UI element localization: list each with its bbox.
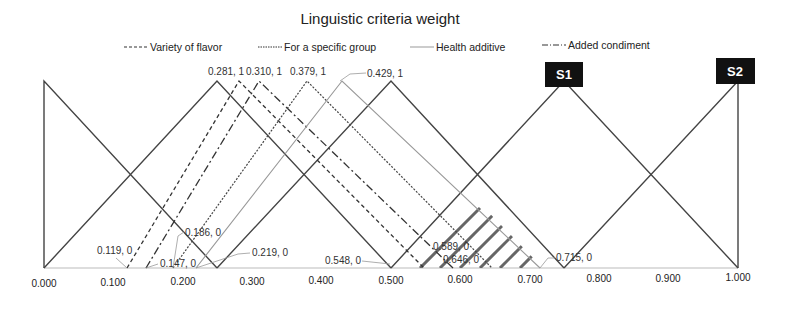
- badge-s1-label: S1: [556, 67, 572, 82]
- low-label: 0.119, 0: [97, 245, 133, 256]
- low-label: 0.219, 0: [252, 247, 289, 258]
- legend-item-variety-of-flavor: Variety of flavor: [124, 41, 223, 53]
- high-label: 0.646, 0: [443, 254, 480, 265]
- high-label: 0.548, 0: [325, 255, 362, 266]
- badge-s2-label: S2: [727, 64, 743, 79]
- badge-s1: S1: [545, 62, 583, 87]
- badge-s2: S2: [716, 58, 755, 84]
- x-tick: 0.300: [239, 276, 264, 287]
- peak-label: 0.281, 1: [208, 66, 245, 77]
- high-label: 0.589, 0: [433, 241, 470, 252]
- low-label: 0.147, 0: [160, 258, 197, 269]
- s1-triangle: [391, 81, 738, 268]
- legend-label: For a specific group: [284, 41, 376, 53]
- peak-label: 0.429, 1: [367, 68, 404, 79]
- high-label: 0.715, 0: [556, 252, 593, 263]
- variety-of-flavor-triangle: [127, 81, 424, 268]
- x-tick: 0.400: [308, 275, 333, 286]
- legend-item-added-condiment: Added condiment: [542, 39, 650, 51]
- added-condiment-triangle: [146, 81, 453, 268]
- legend-label: Variety of flavor: [150, 41, 223, 53]
- x-tick: 0.000: [31, 278, 56, 289]
- legend: Variety of flavor For a specific group H…: [124, 39, 650, 53]
- low-labels: 0.119, 0 0.147, 0 0.186, 0 0.219, 0: [97, 227, 289, 269]
- x-tick: 0.700: [517, 274, 542, 285]
- x-tick: 0.600: [447, 274, 472, 285]
- x-tick: 1.000: [725, 272, 750, 283]
- legend-item-health-additive: Health additive: [410, 41, 506, 53]
- x-tick: 0.200: [170, 276, 195, 287]
- x-tick: 0.500: [378, 275, 403, 286]
- legend-label: Added condiment: [568, 39, 650, 51]
- peak-labels: 0.281, 1 0.310, 1 0.379, 1 0.429, 1: [208, 66, 404, 81]
- legend-item-for-a-specific-group: For a specific group: [258, 41, 376, 53]
- linguistic-terms: [44, 81, 738, 268]
- x-tick: 0.100: [100, 277, 125, 288]
- low-label: 0.186, 0: [185, 227, 222, 238]
- chart-title: Linguistic criteria weight: [300, 10, 460, 27]
- for-a-specific-group-triangle: [173, 81, 492, 268]
- x-tick: 0.800: [586, 273, 611, 284]
- legend-label: Health additive: [436, 41, 506, 53]
- fuzzy-membership-chart: Linguistic criteria weight Variety of fl…: [0, 0, 794, 309]
- peak-label: 0.379, 1: [290, 66, 327, 77]
- peak-label: 0.310, 1: [246, 66, 283, 77]
- x-tick-labels: 0.000 0.100 0.200 0.300 0.400 0.500 0.60…: [31, 272, 750, 289]
- x-tick: 0.900: [655, 273, 680, 284]
